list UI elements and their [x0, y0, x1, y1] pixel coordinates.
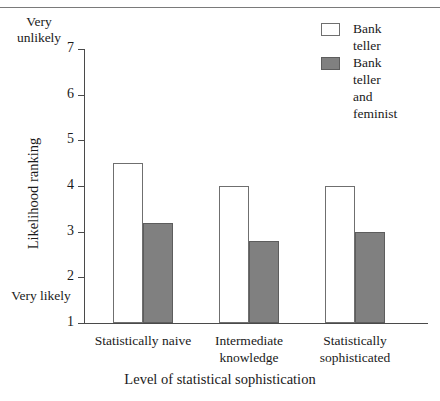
y-axis-tick-label: 7: [50, 41, 74, 55]
legend-item-label: Bank teller: [353, 20, 382, 54]
y-axis-tick-label-text: 3: [50, 224, 74, 238]
y-axis-tick-label: 3: [50, 224, 74, 238]
bar: [143, 223, 173, 323]
chart-figure: Very unlikely Very likely Likelihood ran…: [0, 0, 440, 401]
top-divider-rule: [0, 7, 440, 8]
y-axis-tick: [78, 95, 85, 96]
bar: [249, 241, 279, 323]
y-axis-tick-label-text: 6: [50, 87, 74, 101]
y-axis-tick-label-text: 4: [50, 178, 74, 192]
x-axis-title: Level of statistical sophistication: [0, 371, 440, 388]
y-axis-title: Likelihood ranking: [25, 114, 42, 274]
y-axis-bottom-caption: Very likely: [10, 288, 72, 304]
bar: [355, 232, 385, 323]
y-axis-tick-label: 4: [50, 178, 74, 192]
bar: [113, 163, 143, 323]
legend-item: Bank teller: [321, 20, 382, 54]
legend-swatch-icon: [321, 57, 340, 70]
y-axis-tick-label-text: 2: [50, 269, 74, 283]
y-axis-tick-label-text: 7: [50, 41, 74, 55]
bar: [219, 186, 249, 323]
bar: [325, 186, 355, 323]
y-axis-tick: [78, 186, 85, 187]
x-axis-line: [84, 323, 428, 324]
y-axis-tick: [78, 323, 85, 324]
legend-item-label: Bank teller and feminist: [353, 54, 397, 122]
y-axis-tick-label: 2: [50, 269, 74, 283]
y-axis-tick: [78, 49, 85, 50]
y-axis-tick-label: 1: [50, 315, 74, 329]
y-axis-tick: [78, 232, 85, 233]
y-axis-tick-label: 5: [50, 132, 74, 146]
y-axis-tick-label: 6: [50, 87, 74, 101]
legend-swatch-icon: [321, 23, 340, 36]
legend-item: Bank teller and feminist: [321, 54, 397, 122]
x-axis-category-label: Statistically sophisticated: [290, 332, 420, 366]
y-axis-tick: [78, 277, 85, 278]
y-axis-tick: [78, 140, 85, 141]
y-axis-tick-label-text: 5: [50, 132, 74, 146]
y-axis-tick-label-text: 1: [50, 315, 74, 329]
